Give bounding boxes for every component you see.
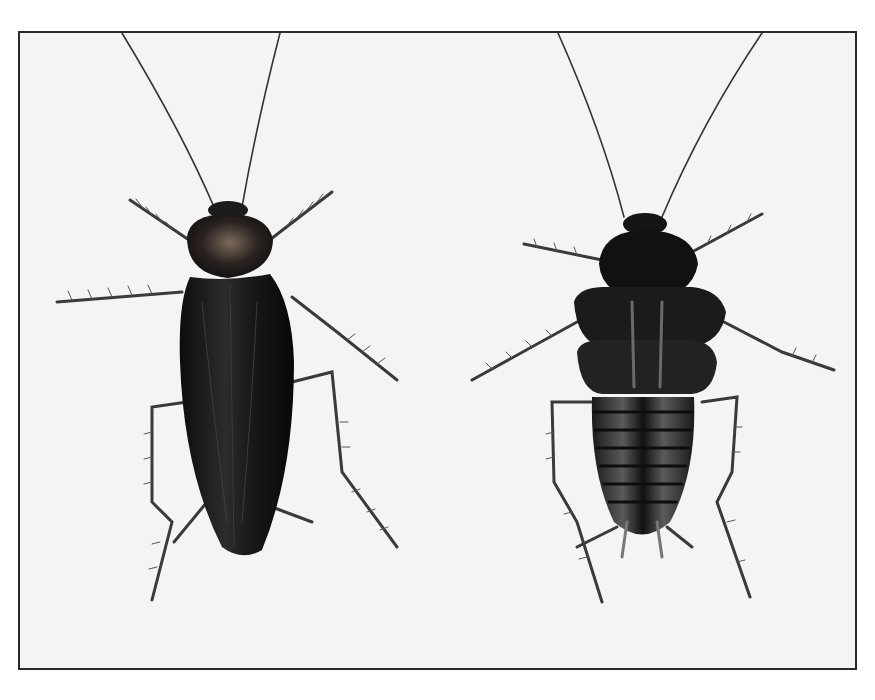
specimens-illustration bbox=[20, 33, 855, 668]
photo-frame bbox=[18, 31, 857, 670]
left-cockroach bbox=[57, 33, 397, 600]
right-cockroach bbox=[472, 33, 834, 602]
